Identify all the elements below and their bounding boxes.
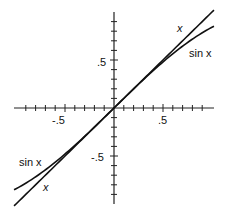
label-x-lower: x	[42, 181, 49, 193]
label-sin-x-lower: sin x	[19, 156, 42, 168]
function-plot: -.5 .5 .5 -.5 x sin x sin x x	[0, 0, 227, 214]
x-tick-label-pos-half: .5	[158, 114, 167, 126]
y-tick-label-pos-half: .5	[97, 56, 106, 68]
x-tick-label-neg-half: -.5	[52, 114, 65, 126]
label-sin-x-upper: sin x	[189, 47, 212, 59]
label-x-upper: x	[176, 22, 183, 34]
y-tick-label-neg-half: -.5	[91, 151, 104, 163]
